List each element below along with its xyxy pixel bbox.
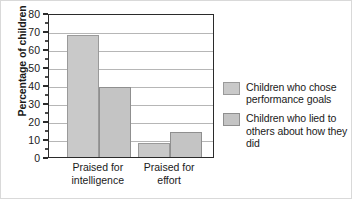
legend-item-label: Children who lied to others about how th… [246,112,351,149]
y-tick-label: 80 [16,9,40,19]
y-tick-label: 60 [16,45,40,55]
legend-item: Children who chose performance goals [223,81,351,105]
x-axis-category-label: Praised foreffort [124,161,214,186]
bar [99,87,131,157]
legend-swatch-icon [223,82,240,95]
bar [170,132,202,157]
bar-chart-figure: Percentage of children 01020304050607080… [0,0,352,199]
y-tick-label: 40 [16,81,40,91]
chart-legend: Children who chose performance goalsChil… [223,81,351,156]
y-tick-label: 70 [16,27,40,37]
bar [138,143,170,157]
y-tick-label: 10 [16,135,40,145]
legend-item-label: Children who chose performance goals [246,81,351,105]
bar [67,35,99,157]
legend-swatch-icon [223,113,240,126]
legend-item: Children who lied to others about how th… [223,112,351,149]
x-label-line: effort [124,174,214,187]
y-tick-label: 50 [16,63,40,73]
y-tick-label: 0 [16,153,40,163]
y-tick-label: 20 [16,117,40,127]
x-label-line: Praised for [124,161,214,174]
plot-area [48,14,214,158]
bars-layer [49,15,213,157]
y-axis-ticks: 01020304050607080 [13,14,48,158]
y-tick-label: 30 [16,99,40,109]
